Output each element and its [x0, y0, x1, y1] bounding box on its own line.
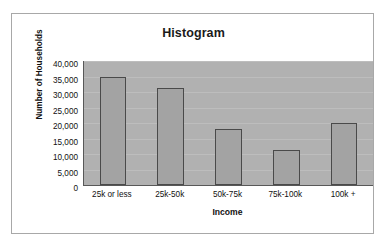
y-tick-label: 30,000	[30, 92, 78, 100]
plot-area	[83, 61, 373, 186]
x-tick-label: 25k-50k	[141, 190, 199, 199]
y-tick-label: 15,000	[30, 139, 78, 147]
x-tick-label: 25k or less	[83, 190, 141, 199]
y-tick-label: 10,000	[30, 154, 78, 162]
x-axis-tick-labels: 25k or less25k-50k50k-75k75k-100k100k +	[83, 190, 372, 204]
x-tick-label: 50k-75k	[199, 190, 257, 199]
y-tick-label: 5,000	[30, 170, 78, 178]
gridline	[84, 92, 373, 93]
y-tick-label: 25,000	[30, 108, 78, 116]
x-axis-title: Income	[83, 207, 372, 217]
chart-page: Histogram Number of Households 40,00035,…	[0, 0, 388, 249]
gridline	[84, 123, 373, 124]
bar	[100, 77, 127, 185]
y-tick-label: 40,000	[30, 61, 78, 69]
y-tick-label: 0	[30, 185, 78, 193]
y-tick-label: 35,000	[30, 77, 78, 85]
gridline	[84, 61, 373, 62]
gridline	[84, 77, 373, 78]
bar	[273, 150, 300, 185]
bar	[331, 123, 358, 185]
gridline	[84, 108, 373, 109]
chart-title: Histogram	[12, 26, 375, 40]
y-tick-label: 20,000	[30, 123, 78, 131]
x-tick-label: 75k-100k	[256, 190, 314, 199]
bar	[157, 88, 184, 185]
y-axis-tick-labels: 40,00035,00030,00025,00020,00015,00010,0…	[32, 55, 80, 187]
x-tick-label: 100k +	[314, 190, 372, 199]
bar	[215, 129, 242, 185]
chart-frame: Histogram Number of Households 40,00035,…	[11, 13, 374, 234]
